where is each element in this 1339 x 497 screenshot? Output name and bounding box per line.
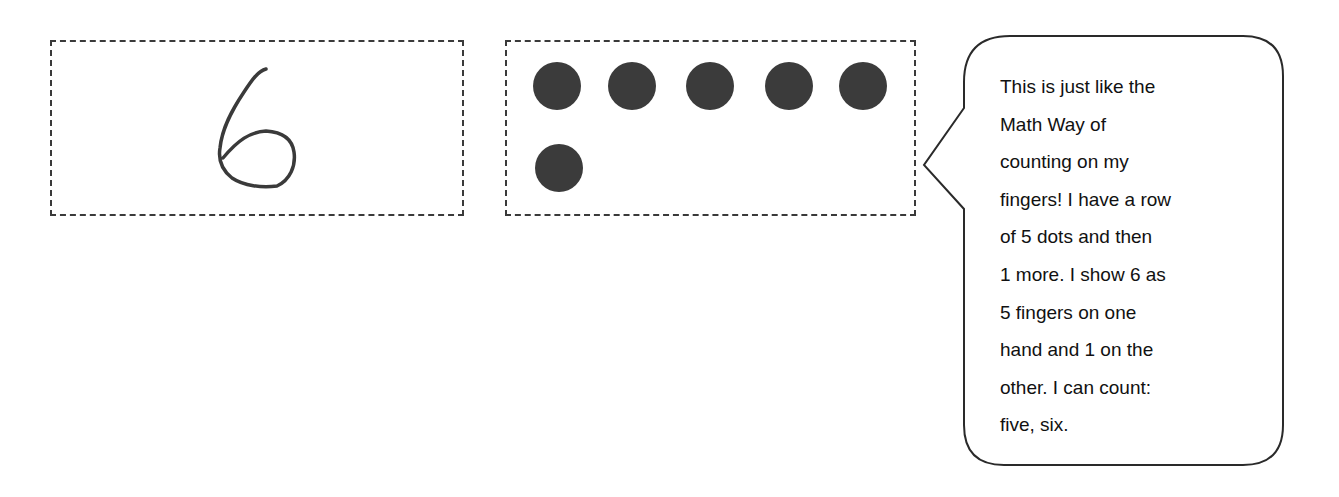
speech-bubble-text: This is just like the Math Way of counti… [1000, 68, 1270, 444]
bubble-line: hand and 1 on the [1000, 331, 1270, 369]
bubble-line: 5 fingers on one [1000, 294, 1270, 332]
bubble-line: five, six. [1000, 406, 1270, 444]
bubble-line: This is just like the [1000, 68, 1270, 106]
bubble-line: of 5 dots and then [1000, 218, 1270, 256]
bubble-line: fingers! I have a row [1000, 181, 1270, 219]
bubble-line: counting on my [1000, 143, 1270, 181]
bubble-line: other. I can count: [1000, 369, 1270, 407]
bubble-line: Math Way of [1000, 106, 1270, 144]
bubble-line: 1 more. I show 6 as [1000, 256, 1270, 294]
